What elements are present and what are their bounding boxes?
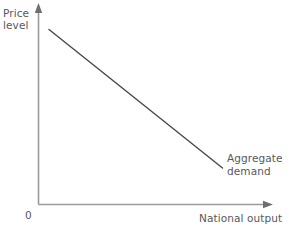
aggregate-demand-label-line2: demand	[227, 165, 271, 177]
aggregate-demand-figure: Pricelevel 0 National output Aggregatede…	[0, 0, 289, 233]
y-axis-arrowhead	[35, 3, 42, 13]
y-axis-label-line1: Price	[3, 7, 29, 19]
y-axis-label-line2: level	[3, 19, 28, 31]
chart-canvas	[0, 0, 289, 233]
aggregate-demand-curve	[49, 30, 223, 169]
x-axis-label: National output	[199, 212, 282, 224]
aggregate-demand-label: Aggregatedemand	[227, 152, 283, 177]
y-axis-label: Pricelevel	[3, 7, 29, 31]
x-axis-arrowhead	[263, 201, 273, 209]
aggregate-demand-label-line1: Aggregate	[227, 152, 283, 164]
origin-label: 0	[25, 209, 32, 221]
